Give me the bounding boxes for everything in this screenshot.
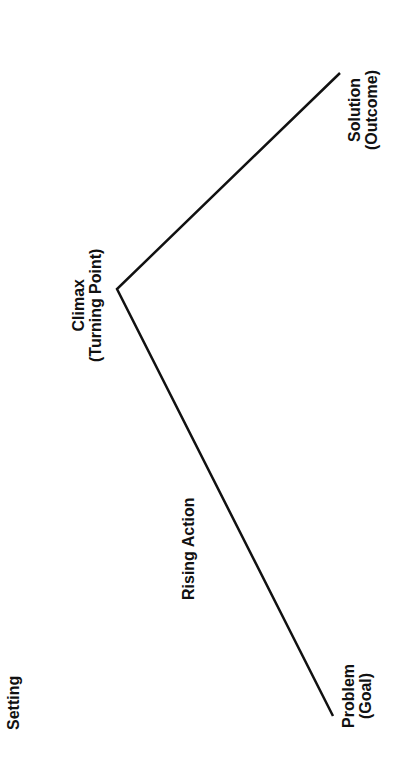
plot-line [117, 73, 340, 716]
label-climax: Climax (Turning Point) [70, 249, 104, 362]
rising-action-text: Rising Action [180, 497, 197, 600]
solution-subtext: (Outcome) [363, 70, 380, 150]
label-solution: Solution (Outcome) [346, 70, 380, 150]
climax-text: Climax [70, 249, 87, 362]
setting-text: Setting [5, 676, 22, 730]
problem-text: Problem [340, 664, 357, 728]
problem-subtext: (Goal) [357, 664, 374, 728]
climax-subtext: (Turning Point) [87, 249, 104, 362]
label-rising-action: Rising Action [180, 497, 197, 600]
label-problem: Problem (Goal) [340, 664, 374, 728]
solution-text: Solution [346, 70, 363, 150]
label-setting: Setting [5, 676, 22, 730]
